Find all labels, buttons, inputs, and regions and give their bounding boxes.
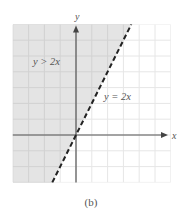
x-axis-label: x bbox=[171, 130, 177, 141]
inequality-label: y > 2x bbox=[32, 56, 60, 67]
figure-caption: (b) bbox=[85, 196, 98, 209]
y-axis-label: y bbox=[74, 11, 80, 22]
equation-label: y = 2x bbox=[103, 91, 131, 102]
inequality-graph: x y y > 2x y = 2x (b) bbox=[0, 0, 183, 221]
